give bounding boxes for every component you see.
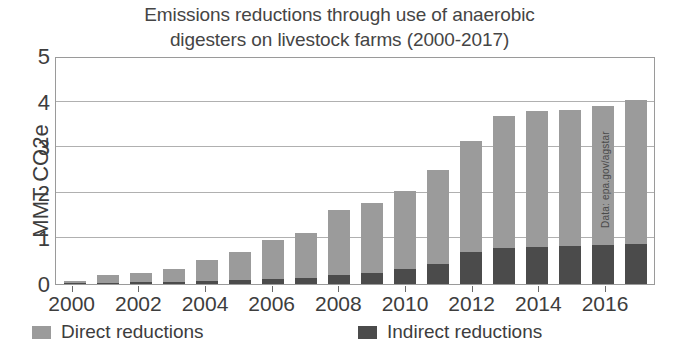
y-tick-label: 1 [20, 228, 50, 250]
legend-label-indirect: Indirect reductions [387, 321, 542, 343]
bar-column [328, 58, 350, 284]
bar-segment-direct [97, 275, 119, 282]
bar-segment-direct [493, 116, 515, 248]
chart-title-line-1: Emissions reductions through use of anae… [0, 2, 679, 27]
chart-title: Emissions reductions through use of anae… [0, 2, 679, 52]
x-tick-label: 2012 [448, 292, 495, 316]
bar-segment-direct [394, 191, 416, 269]
bar-segment-direct [262, 240, 284, 280]
bar-segment-direct [526, 111, 548, 246]
bar-segment-direct [559, 110, 581, 246]
bar-segment-indirect [394, 269, 416, 284]
bar-segment-indirect [427, 264, 449, 284]
legend-swatch-indirect [358, 326, 377, 339]
x-tick-label: 2002 [115, 292, 162, 316]
legend-swatch-direct [32, 326, 51, 339]
bar-segment-indirect [130, 282, 152, 284]
x-axis-tick-labels: 200020022004200620082010201220142016 [55, 286, 655, 316]
bar-segment-indirect [262, 279, 284, 284]
bar-segment-direct [163, 269, 185, 281]
x-tick-label: 2006 [248, 292, 295, 316]
chart-title-line-2: digesters on livestock farms (2000-2017) [0, 27, 679, 52]
legend-item-direct: Direct reductions [32, 321, 204, 343]
bar-segment-direct [460, 141, 482, 252]
bar-segment-indirect [361, 273, 383, 284]
x-tick-label: 2000 [48, 292, 95, 316]
bar-segment-indirect [196, 281, 218, 284]
plot-area [55, 57, 655, 285]
bar-series-group [56, 58, 654, 284]
bar-column [229, 58, 251, 284]
bar-column [394, 58, 416, 284]
bar-column [295, 58, 317, 284]
bar-segment-direct [625, 100, 647, 244]
x-tick-label: 2010 [382, 292, 429, 316]
bar-segment-direct [196, 260, 218, 281]
x-tick-label: 2008 [315, 292, 362, 316]
legend-label-direct: Direct reductions [61, 321, 204, 343]
bar-segment-indirect [559, 246, 581, 284]
bar-column [130, 58, 152, 284]
bar-segment-direct [427, 170, 449, 264]
bar-segment-direct [229, 252, 251, 280]
source-note: Data: epa.gov/agstar [600, 78, 611, 228]
bar-segment-indirect [64, 283, 86, 284]
bar-segment-direct [295, 233, 317, 278]
chart-legend: Direct reductions Indirect reductions [0, 320, 679, 347]
y-tick-label: 4 [20, 92, 50, 114]
bar-segment-indirect [295, 278, 317, 284]
bar-column [361, 58, 383, 284]
bar-column [196, 58, 218, 284]
bar-segment-indirect [460, 252, 482, 284]
y-axis-tick-labels: 012345 [14, 57, 50, 285]
x-tick-label: 2004 [182, 292, 229, 316]
bar-column [526, 58, 548, 284]
bar-column [64, 58, 86, 284]
bar-column [97, 58, 119, 284]
bar-segment-indirect [625, 244, 647, 284]
legend-item-indirect: Indirect reductions [358, 321, 542, 343]
chart-page: Emissions reductions through use of anae… [0, 0, 679, 347]
bar-segment-indirect [493, 248, 515, 284]
bar-segment-direct [328, 210, 350, 275]
bar-column [493, 58, 515, 284]
y-tick-label: 3 [20, 137, 50, 159]
bar-column [262, 58, 284, 284]
bar-segment-indirect [592, 245, 614, 284]
bar-segment-indirect [163, 282, 185, 284]
bar-column [460, 58, 482, 284]
bar-segment-indirect [328, 275, 350, 284]
bar-segment-direct [130, 273, 152, 283]
y-tick-label: 2 [20, 183, 50, 205]
bar-column [427, 58, 449, 284]
bar-segment-indirect [97, 283, 119, 284]
y-tick-label: 5 [20, 46, 50, 68]
bar-segment-direct [361, 203, 383, 273]
bar-segment-indirect [229, 280, 251, 284]
bar-column [163, 58, 185, 284]
x-tick-label: 2016 [582, 292, 629, 316]
bar-column [559, 58, 581, 284]
bar-column [625, 58, 647, 284]
x-tick-label: 2014 [515, 292, 562, 316]
y-tick-label: 0 [20, 274, 50, 296]
bar-segment-indirect [526, 247, 548, 284]
